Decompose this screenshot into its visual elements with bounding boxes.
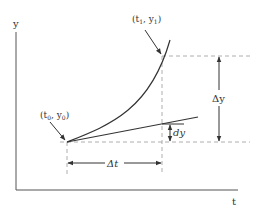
derivative-diagram: y t dy Δy Δt (t0, y0) (t1, y1) bbox=[0, 0, 263, 213]
start-point-label: (t0, y0) bbox=[40, 110, 69, 121]
delta-t-label: Δt bbox=[106, 158, 119, 169]
end-point-pointer bbox=[145, 30, 161, 54]
dy-label: dy bbox=[173, 127, 185, 138]
end-point-label: (t1, y1) bbox=[132, 14, 161, 25]
y-axis-label: y bbox=[12, 18, 19, 29]
function-curve bbox=[67, 40, 170, 142]
dashed-guides bbox=[60, 56, 250, 174]
start-point-pointer bbox=[50, 122, 65, 140]
delta-y-label: Δy bbox=[212, 93, 225, 104]
t-axis-label: t bbox=[232, 196, 236, 207]
